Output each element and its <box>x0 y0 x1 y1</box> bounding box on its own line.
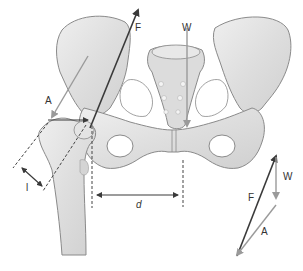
triangle-f-arrow <box>237 156 276 256</box>
left-ilium <box>57 16 131 116</box>
label-l: l <box>26 183 28 193</box>
vector-triangle <box>237 156 276 256</box>
pelvis-diagram <box>0 0 303 271</box>
label-w: W <box>182 23 191 33</box>
triangle-label-f: F <box>248 193 254 203</box>
lesser-trochanter <box>80 160 89 175</box>
label-f: F <box>135 23 141 33</box>
femur <box>39 118 96 255</box>
triangle-label-w: W <box>283 172 292 182</box>
triangle-a-arrow <box>237 205 276 255</box>
lever-arm-l-arrow <box>22 168 42 186</box>
right-obturator-foramen <box>209 135 235 157</box>
triangle-label-a: A <box>261 227 268 237</box>
left-obturator-foramen <box>107 135 133 157</box>
sacrum <box>148 45 205 129</box>
label-d: d <box>136 200 142 210</box>
label-a: A <box>45 96 52 106</box>
